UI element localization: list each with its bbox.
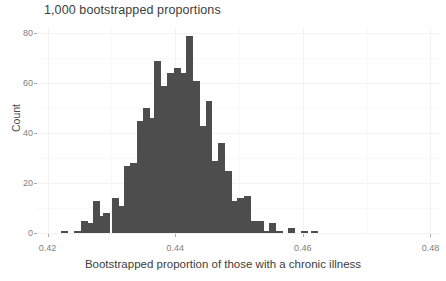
y-axis-tick-mark xyxy=(34,33,37,34)
x-axis-tick-label: 0.48 xyxy=(422,243,440,253)
gridline-vertical xyxy=(303,28,304,233)
y-axis-tick-label: 80 xyxy=(23,28,33,38)
gridline-vertical xyxy=(48,28,49,233)
x-axis-tick-label: 0.44 xyxy=(166,243,184,253)
y-axis-tick-label: 60 xyxy=(23,78,33,88)
histogram-bar xyxy=(311,231,318,234)
x-axis-tick-label: 0.46 xyxy=(294,243,312,253)
x-axis-tick-mark xyxy=(48,234,49,237)
histogram-bar xyxy=(61,231,68,234)
y-axis-title: Count xyxy=(10,88,22,148)
histogram-bar xyxy=(74,231,81,234)
histogram-bar xyxy=(276,231,283,234)
y-axis-tick-mark xyxy=(34,133,37,134)
gridline-vertical-minor xyxy=(367,28,368,233)
gridline-horizontal xyxy=(38,233,440,234)
y-axis-tick-mark xyxy=(34,183,37,184)
y-axis-tick-mark xyxy=(34,233,37,234)
chart-title: 1,000 bootstrapped proportions xyxy=(44,3,221,17)
histogram-bar xyxy=(288,228,295,233)
y-axis-tick-mark xyxy=(34,83,37,84)
histogram-bar xyxy=(103,213,110,233)
chart-container: 1,000 bootstrapped proportions 020406080… xyxy=(0,0,446,281)
x-axis-tick-mark xyxy=(175,234,176,237)
y-axis-tick-label: 40 xyxy=(23,128,33,138)
x-axis-title: Bootstrapped proportion of those with a … xyxy=(0,258,446,270)
y-axis-tick-label: 0 xyxy=(28,228,33,238)
gridline-vertical xyxy=(430,28,431,233)
plot-area xyxy=(38,28,440,233)
y-axis-tick-label: 20 xyxy=(23,178,33,188)
x-axis-tick-mark xyxy=(303,234,304,237)
x-axis-tick-label: 0.42 xyxy=(39,243,57,253)
x-axis-tick-mark xyxy=(430,234,431,237)
histogram-bar xyxy=(301,231,308,234)
